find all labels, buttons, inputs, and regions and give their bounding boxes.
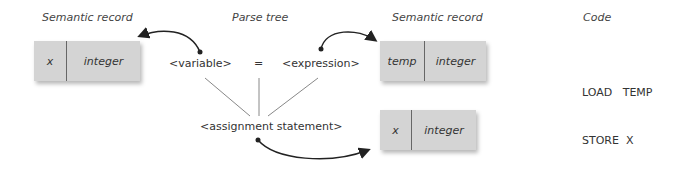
heading-parse-tree: Parse tree xyxy=(232,11,288,24)
arrow-expression-to-record xyxy=(321,32,375,49)
record-type: integer xyxy=(67,41,140,81)
record-name: x xyxy=(34,41,67,81)
node-equals: = xyxy=(254,57,263,70)
record-name: x xyxy=(380,110,412,150)
node-variable: <variable> xyxy=(169,57,232,70)
semantic-record-temp: temp integer xyxy=(380,41,486,81)
edge-variable xyxy=(205,78,250,116)
heading-code: Code xyxy=(583,11,611,24)
node-assignment-statement: <assignment statement> xyxy=(200,120,343,133)
heading-semantic-record-right: Semantic record xyxy=(392,11,483,24)
arrow-variable-to-record xyxy=(140,31,200,52)
edge-expression xyxy=(268,78,318,116)
connector-lines xyxy=(0,0,678,170)
record-name: temp xyxy=(380,41,425,81)
code-line-store: STORE X xyxy=(582,133,652,149)
arrow-assignment-to-record xyxy=(258,140,368,159)
code-line-load: LOAD TEMP xyxy=(582,85,652,101)
heading-semantic-record-left: Semantic record xyxy=(42,11,133,24)
diagram-canvas: Semantic record Parse tree Semantic reco… xyxy=(0,0,678,170)
semantic-record-x-result: x integer xyxy=(380,110,476,150)
record-type: integer xyxy=(412,110,476,150)
semantic-record-x: x integer xyxy=(34,41,140,81)
code-block: LOAD TEMP STORE X xyxy=(582,53,652,170)
record-type: integer xyxy=(425,41,486,81)
node-expression: <expression> xyxy=(282,57,360,70)
